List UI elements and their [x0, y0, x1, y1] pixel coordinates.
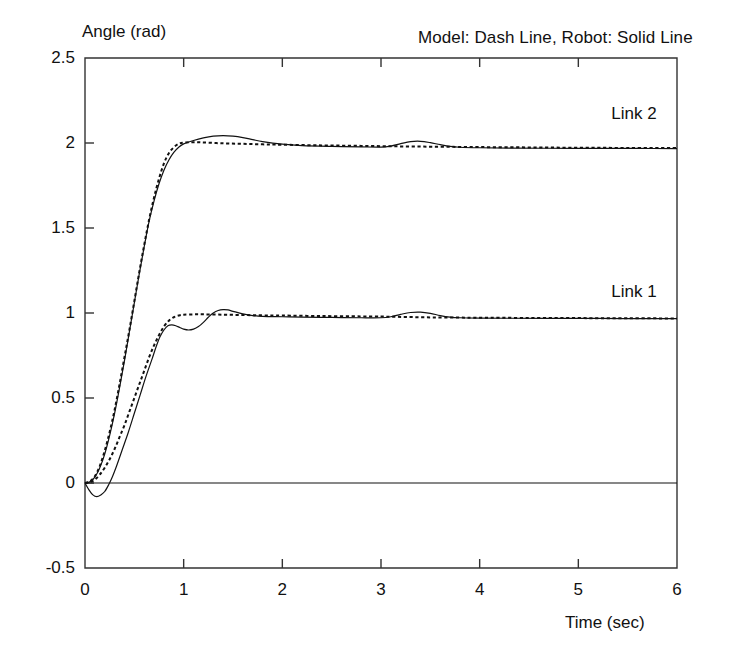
chart-figure: Model: Dash Line, Robot: Solid Line Angl…: [0, 0, 734, 659]
plot-frame-box: [85, 58, 677, 568]
plot-canvas: [0, 0, 734, 659]
series-curve-4: [85, 136, 677, 483]
series-curve-1: [85, 314, 677, 483]
axis-ticks: [85, 58, 578, 568]
plot-frame: [85, 58, 677, 568]
series-curve-2: [85, 310, 677, 497]
data-curves: [85, 136, 677, 497]
series-curve-3: [85, 142, 677, 483]
